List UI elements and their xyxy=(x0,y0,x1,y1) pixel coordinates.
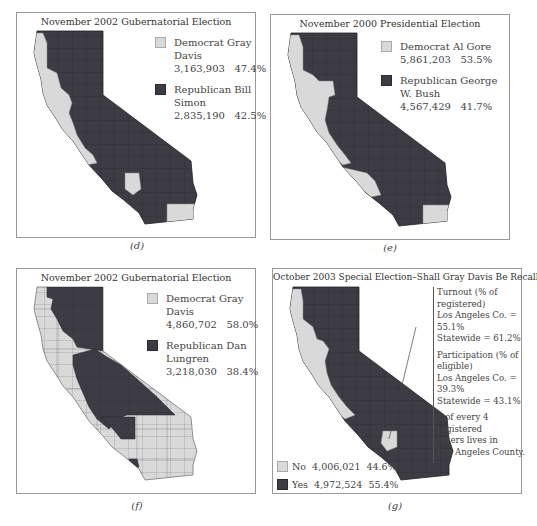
republican-swatch xyxy=(147,340,158,351)
legend-item-republican: Republican George W. Bush 4,567,429 41.7… xyxy=(381,74,509,113)
vote-count: 4,567,429 xyxy=(400,101,451,112)
la-county-note: 1 of every 4 registered voters lives in … xyxy=(437,412,527,458)
legend-label: Democrat Gray Davis xyxy=(174,36,266,62)
map-panel-e: November 2000 Presidential Election Demo… xyxy=(270,14,510,240)
legend-item-democrat: Democrat Al Gore 5,861,203 53.5% xyxy=(381,40,509,66)
vote-count: 3,218,030 xyxy=(166,366,217,377)
legend-item-democrat: Democrat Gray Davis 4,860,702 58.0% xyxy=(147,292,258,331)
legend-item-republican: Republican Bill Simon 2,835,190 42.5% xyxy=(155,83,266,122)
vote-percent: 38.4% xyxy=(226,366,258,377)
legend: Democrat Gray Davis 3,163,903 47.4% Repu… xyxy=(155,36,266,130)
vote-percent: 58.0% xyxy=(226,319,258,330)
legend-label: Republican Bill Simon xyxy=(174,83,266,109)
vote-percent: 47.4% xyxy=(234,63,266,74)
vote-percent: 42.5% xyxy=(234,110,266,121)
panel-caption-g: (g) xyxy=(380,500,410,511)
legend-label: Democrat Al Gore xyxy=(400,40,509,53)
panel-caption-d: (d) xyxy=(122,240,152,251)
map-panel-f: November 2002 Gubernatorial Election Dem… xyxy=(16,268,256,494)
vote-count: 4,972,524 xyxy=(314,479,362,490)
legend: Democrat Al Gore 5,861,203 53.5% Republi… xyxy=(381,40,509,121)
vote-count: 4,006,021 xyxy=(312,461,360,472)
vote-percent: 53.5% xyxy=(460,54,492,65)
recall-notes: Turnout (% of registered) Los Angeles Co… xyxy=(433,287,527,463)
democrat-swatch xyxy=(155,37,166,48)
turnout-note: Turnout (% of registered) Los Angeles Co… xyxy=(437,287,527,345)
legend-item-yes: Yes 4,972,524 55.4% xyxy=(277,479,399,490)
legend-item-republican: Republican Dan Lungren 3,218,030 38.4% xyxy=(147,339,258,378)
vote-count: 4,860,702 xyxy=(166,319,217,330)
panel-caption-f: (f) xyxy=(122,500,152,511)
map-panel-g: October 2003 Special Election–Shall Gray… xyxy=(272,268,522,494)
republican-swatch xyxy=(155,84,166,95)
vote-percent: 41.7% xyxy=(460,101,492,112)
republican-swatch xyxy=(381,75,392,86)
democrat-swatch xyxy=(147,293,158,304)
legend-item-democrat: Democrat Gray Davis 3,163,903 47.4% xyxy=(155,36,266,75)
vote-percent: 44.6% xyxy=(367,461,397,472)
vote-count: 2,835,190 xyxy=(174,110,225,121)
vote-count: 3,163,903 xyxy=(174,63,225,74)
no-swatch xyxy=(277,461,288,472)
legend-label: Republican Dan Lungren xyxy=(166,339,258,365)
vote-percent: 55.4% xyxy=(368,479,398,490)
legend-item-no: No 4,006,021 44.6% xyxy=(277,461,397,472)
yes-swatch xyxy=(277,479,288,490)
panel-caption-e: (e) xyxy=(375,242,405,253)
vote-count: 5,861,203 xyxy=(400,54,451,65)
legend-label: Democrat Gray Davis xyxy=(166,292,258,318)
participation-note: Participation (% of eligible) Los Angele… xyxy=(437,350,527,408)
democrat-swatch xyxy=(381,41,392,52)
legend-label: Republican George W. Bush xyxy=(400,74,509,100)
map-panel-d: November 2002 Gubernatorial Election Dem… xyxy=(16,12,256,238)
legend: Democrat Gray Davis 4,860,702 58.0% Repu… xyxy=(147,292,258,386)
